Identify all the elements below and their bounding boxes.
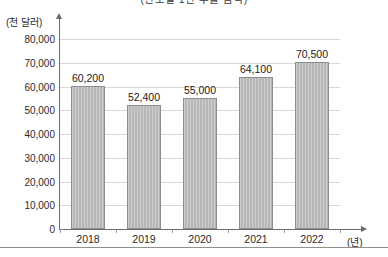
bar-value-label-2020: 55,000 <box>184 84 216 96</box>
bar-2020 <box>183 98 217 229</box>
x-tick-label-2019: 2019 <box>132 233 155 245</box>
x-tick-mark <box>116 230 117 233</box>
x-axis-arrow-icon <box>361 226 367 232</box>
bar-value-label-2019: 52,400 <box>128 91 160 103</box>
y-tick-label: 60,000 <box>0 81 55 92</box>
y-tick-label: 40,000 <box>0 129 55 140</box>
x-tick-label-2020: 2020 <box>188 233 211 245</box>
x-tick-label-2018: 2018 <box>76 233 99 245</box>
y-axis-unit-label: (천 달러) <box>6 14 42 29</box>
y-tick-label: 70,000 <box>0 57 55 68</box>
y-tick-label: 30,000 <box>0 152 55 163</box>
x-tick-mark <box>340 230 341 233</box>
y-tick-label: 50,000 <box>0 105 55 116</box>
y-tick-label: 80,000 <box>0 34 55 45</box>
chart-title: (연도별 1인 수출 금액) <box>0 0 388 6</box>
gridline <box>60 39 340 40</box>
y-axis-arrow-icon <box>56 13 62 19</box>
bar-2021 <box>239 77 273 229</box>
x-axis-line <box>59 229 362 230</box>
bar-2019 <box>127 105 161 229</box>
y-tick-label: 10,000 <box>0 200 55 211</box>
x-tick-mark <box>60 230 61 233</box>
bar-value-label-2021: 64,100 <box>240 63 272 75</box>
bottom-separator <box>0 247 388 248</box>
bar-value-label-2018: 60,200 <box>72 72 104 84</box>
x-tick-label-2021: 2021 <box>244 233 267 245</box>
y-tick-label: 0 <box>0 224 55 235</box>
bar-2018 <box>71 86 105 229</box>
bar-value-label-2022: 70,500 <box>296 48 328 60</box>
y-tick-label: 20,000 <box>0 176 55 187</box>
x-tick-mark <box>172 230 173 233</box>
x-tick-mark <box>228 230 229 233</box>
x-tick-label-2022: 2022 <box>300 233 323 245</box>
bar-2022 <box>295 62 329 229</box>
x-tick-mark <box>284 230 285 233</box>
